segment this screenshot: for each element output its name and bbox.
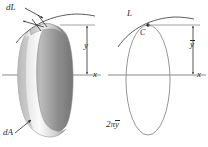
label-ybar-text: y xyxy=(190,40,194,49)
right-centroid-path-ellipse xyxy=(126,25,170,135)
label-y-radius: y xyxy=(84,41,88,50)
left-dA-leader xyxy=(15,120,31,133)
label-2pi-ybar-var: y xyxy=(115,120,119,129)
right-panel xyxy=(108,17,206,135)
label-2pi-prefix: 2π xyxy=(106,119,115,129)
label-2pi-ybar: 2πy xyxy=(106,120,119,129)
left-panel xyxy=(2,8,101,137)
label-ybar-centroid-distance: y xyxy=(190,40,194,49)
label-dA: dA xyxy=(3,128,13,137)
label-L-curve: L xyxy=(127,9,132,18)
left-dL-arrow-right xyxy=(25,8,43,18)
right-generating-curve xyxy=(118,17,194,47)
label-C-centroid: C xyxy=(140,29,145,37)
label-x-axis-right: x xyxy=(197,70,201,79)
pappus-surface-of-revolution-figure xyxy=(0,0,208,147)
label-x-axis-left: x xyxy=(93,70,97,79)
label-dL: dL xyxy=(6,3,16,12)
